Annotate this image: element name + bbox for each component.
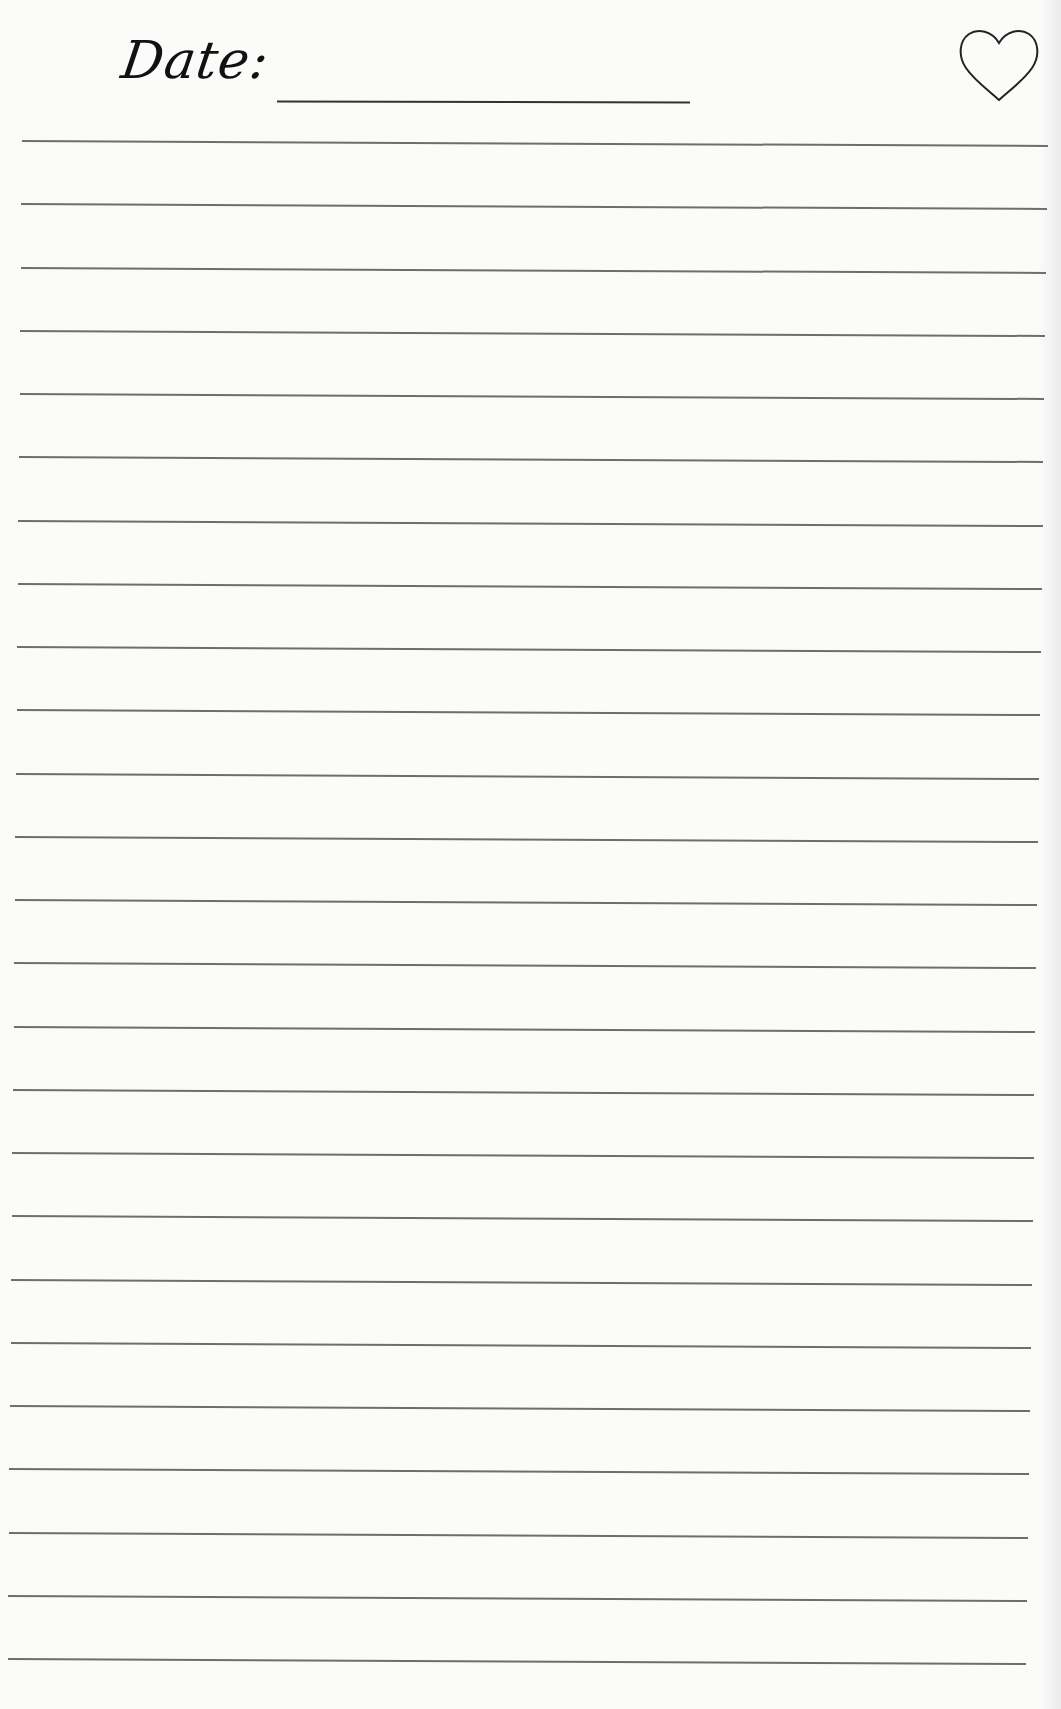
page-edge-shadow [1039,0,1061,1709]
ruled-line [14,962,1036,968]
ruled-line [18,583,1042,590]
ruled-line [17,709,1040,715]
ruled-line [21,267,1046,274]
ruled-line [10,1405,1030,1411]
ruled-line [15,899,1037,905]
ruled-line [12,1152,1034,1158]
date-input-line[interactable] [277,100,690,103]
date-label: Date: [118,30,273,90]
ruled-line [12,1215,1033,1221]
ruled-line [21,203,1047,210]
ruled-line [20,330,1045,337]
ruled-line [16,773,1039,779]
ruled-line [9,1532,1028,1538]
ruled-line [20,393,1044,400]
ruled-line [11,1279,1032,1285]
ruled-line [14,1026,1035,1032]
ruled-line [8,1658,1026,1664]
ruled-line [15,836,1038,842]
heart-icon [956,26,1042,106]
ruled-line [22,140,1048,147]
ruled-line [11,1342,1031,1348]
ruled-line [19,456,1043,463]
ruled-line [13,1089,1034,1095]
ruled-line [8,1595,1027,1601]
ruled-line [18,520,1043,527]
ruled-line [17,646,1041,653]
ruled-line [9,1468,1029,1474]
